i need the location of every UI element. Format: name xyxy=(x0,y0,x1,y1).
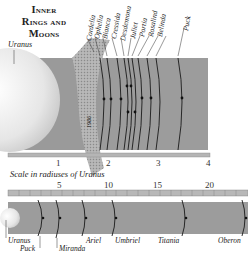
uranus-sphere-bottom xyxy=(0,208,20,228)
top-band xyxy=(100,58,208,150)
bottom-tick-15: 15 xyxy=(153,180,162,190)
bottom-tick-20: 20 xyxy=(205,180,214,190)
top-tick-3: 3 xyxy=(156,158,161,168)
diagram-title: Inner Rings and Moons xyxy=(14,4,74,40)
top-tick-2: 2 xyxy=(106,158,111,168)
label-titania: Titania xyxy=(158,236,179,245)
top-tick-1: 1 xyxy=(56,158,61,168)
label-oberon: Oberon xyxy=(218,236,241,245)
label-umbriel: Umbriel xyxy=(115,236,140,245)
label-ariel: Ariel xyxy=(86,236,101,245)
label-miranda: Miranda xyxy=(59,244,85,253)
ring-year-label: 1986 xyxy=(86,116,92,128)
bottom-tick-10: 10 xyxy=(104,180,113,190)
bottom-tick-5: 5 xyxy=(57,180,62,190)
scale-caption: Scale in radiuses of Uranus xyxy=(10,169,104,179)
top-scale-bar xyxy=(8,153,210,157)
uranus-label-top: Uranus xyxy=(8,40,32,49)
top-tick-4: 4 xyxy=(206,158,211,168)
label-puck-bottom: Puck xyxy=(20,244,35,253)
bottom-scale-bar xyxy=(8,190,248,196)
